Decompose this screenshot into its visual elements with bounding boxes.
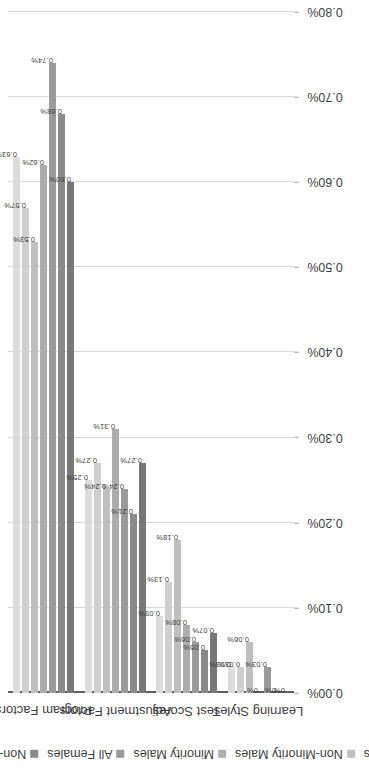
legend-label: All Males [364,747,369,761]
axis-tick: 0.00% [294,675,333,710]
bar[interactable] [237,667,244,693]
axis-tick-label: 0.30% [307,431,342,445]
bar-row: 0.06% [246,12,253,693]
category-axis-labels: Program FactorsAdjustment FactorsTest Sc… [8,695,294,727]
legend-item[interactable]: Non-Minority Males [235,747,355,761]
screenshot-frame: All StudentsAll MalesNon-Minority MalesM… [0,0,369,771]
tick-mark [294,267,299,268]
axis-tick: 0.50% [294,250,333,285]
bar-value-label: 0.62% [22,158,44,167]
bar[interactable] [67,182,74,693]
bar-row: 0.25% [85,12,92,693]
category-label: Adjustment Factors [80,695,152,727]
bar-row: 0.63% [13,12,20,693]
bar-row: 0.21% [130,12,137,693]
axis-tick-label: 0.80% [307,5,342,19]
tick-mark [294,182,299,183]
bar-row: 0.24% [121,12,128,693]
bar-group: 0.09%0.13%0.18%0.08%0.06%0.05%0.07% [151,12,223,693]
bar-groups: 0.63%0.57%0.53%0.62%0.74%0.68%0.60%0.25%… [8,12,294,693]
axis-tick: 0.80% [294,0,333,30]
bar-value-label: 0.18% [156,532,178,541]
legend-swatch-icon [117,750,125,758]
bar[interactable] [228,667,235,693]
axis-tick: 0.60% [294,165,333,200]
bar-value-label: 0.27% [120,456,142,465]
bar-value-label: 0.74% [31,56,53,65]
bar[interactable] [58,114,65,693]
category-label-text: Learning Styles [213,704,303,719]
bar-row: 0.24% [103,12,110,693]
legend-item[interactable]: All Males [364,747,369,761]
axis-tick-label: 0.40% [307,346,342,360]
bar-value-label: 0% [247,686,258,695]
bar[interactable] [139,463,146,693]
bar-row: 0.60% [67,12,74,693]
tick-mark [294,522,299,523]
axis-tick: 0.30% [294,420,333,455]
bar-value-label: 0.60% [49,175,71,184]
legend-label: Non-Minority Males [235,747,343,761]
tick-mark [294,97,299,98]
axis-tick-label: 0.70% [307,90,342,104]
bar-row: 0.27% [139,12,146,693]
bar[interactable] [103,489,110,693]
bar-value-label: 0.03% [218,660,240,669]
bar-row: 0.03% [264,12,271,693]
bar-row: 0% [282,12,289,693]
bar-value-label: 0.03% [245,660,267,669]
legend-label: Minority Males [134,747,215,761]
bar-row: 0.27% [94,12,101,693]
axis-tick-label: 0.60% [307,175,342,189]
bar-value-label: 0.53% [13,234,35,243]
bar-value-label: 0.07% [192,626,214,635]
axis-tick: 0.70% [294,79,333,114]
bar-row: 0.07% [210,12,217,693]
bar[interactable] [156,616,163,693]
bar-chart: All StudentsAll MalesNon-Minority MalesM… [0,0,369,771]
bar-value-label: 0.68% [40,107,62,116]
legend-swatch-icon [347,750,355,758]
bar-row: 0.53% [31,12,38,693]
bar[interactable] [121,489,128,693]
bar-value-label: 0.09% [138,609,160,618]
bar-value-label: 0% [274,686,285,695]
bar-row: 0.09% [156,12,163,693]
legend-swatch-icon [30,750,38,758]
legend-swatch-icon [218,750,226,758]
legend-item[interactable]: Minority Males [134,747,227,761]
legend-item[interactable]: Non-Minority Females [0,747,38,761]
axis-tick: 0.40% [294,335,333,370]
bar[interactable] [40,165,47,693]
bar-row: 0.57% [22,12,29,693]
axis-tick-label: 0.10% [307,601,342,615]
bar[interactable] [49,63,56,693]
bar-row: 0.06% [192,12,199,693]
bar-value-label: 0.24% [102,481,124,490]
bar-value-label: 0.63% [0,149,17,158]
plot-area: 0.63%0.57%0.53%0.62%0.74%0.68%0.60%0.25%… [8,12,294,693]
bar[interactable] [201,650,208,693]
bar[interactable] [22,208,29,693]
bar-value-label: 0.08% [165,617,187,626]
bar-value-label: 0.13% [147,575,169,584]
bar[interactable] [85,480,92,693]
tick-mark [294,352,299,353]
bar-value-label: 0.25% [66,473,88,482]
bar[interactable] [174,540,181,693]
bar[interactable] [112,429,119,693]
bar[interactable] [94,463,101,693]
bar-group: 0.25%0.27%0.24%0.31%0.24%0.21%0.27% [80,12,152,693]
bar[interactable] [31,242,38,693]
bar-value-label: 0.06% [227,634,249,643]
bar-value-label: 0.31% [93,422,115,431]
bar-value-label: 0.27% [75,456,97,465]
bar-row: 0.31% [112,12,119,693]
bar-row: 0.05% [201,12,208,693]
legend-item[interactable]: All Females [47,747,124,761]
bar[interactable] [130,514,137,693]
bar-group: 0.03%0.03%0.06%0%0.03%0%0% [223,12,295,693]
category-label-text: Test Scores [153,703,221,718]
bar[interactable] [165,582,172,693]
bar-value-label: 0.57% [4,200,26,209]
